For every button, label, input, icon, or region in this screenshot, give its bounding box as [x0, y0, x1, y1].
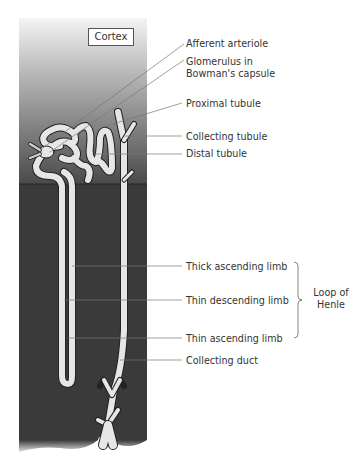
- loop-of-henle-line1: Loop of: [306, 287, 356, 299]
- label-thin-ascending-limb: Thin ascending limb: [186, 333, 283, 345]
- label-bowmans-capsule: Bowman's capsule: [186, 68, 275, 80]
- label-afferent-arteriole: Afferent arteriole: [186, 38, 268, 50]
- label-proximal-tubule: Proximal tubule: [186, 98, 261, 110]
- cortex-label: Cortex: [88, 28, 134, 46]
- label-distal-tubule: Distal tubule: [186, 148, 247, 160]
- bottom-fade: [19, 440, 147, 454]
- loop-of-henle-bracket: [294, 262, 302, 338]
- label-collecting-tubule: Collecting tubule: [186, 131, 267, 143]
- label-thin-descending-limb: Thin descending limb: [186, 295, 289, 307]
- loop-of-henle-label: Loop of Henle: [306, 287, 356, 311]
- label-glomerulus: Glomerulus in: [186, 56, 253, 68]
- label-thick-ascending-limb: Thick ascending limb: [186, 261, 287, 273]
- nephron-diagram: [0, 0, 360, 462]
- label-collecting-duct: Collecting duct: [186, 355, 258, 367]
- loop-of-henle-line2: Henle: [306, 299, 356, 311]
